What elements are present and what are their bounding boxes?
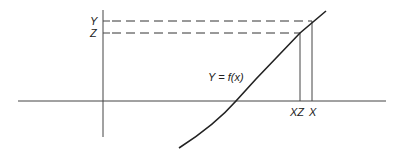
- x-point-label: X: [308, 106, 317, 118]
- xz-point-label: XZ: [289, 106, 305, 118]
- function-curve: [179, 11, 326, 148]
- y-level-label: Y: [90, 15, 98, 27]
- z-level-label: Z: [89, 27, 98, 39]
- function-diagram: Y Z Y = f(x) XZ X: [0, 0, 398, 157]
- function-label: Y = f(x): [208, 71, 244, 83]
